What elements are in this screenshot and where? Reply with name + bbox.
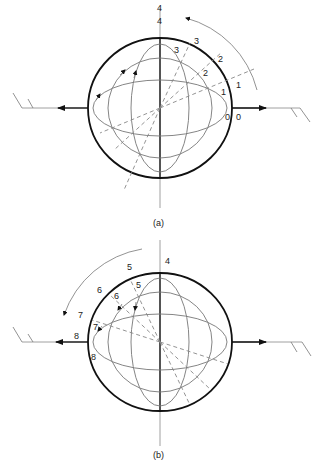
- direction-arrow-icon: [120, 70, 125, 75]
- label-inner-5: 5: [136, 280, 141, 290]
- label-outer-5: 5: [127, 262, 132, 272]
- label-inner-6: 6: [114, 291, 119, 301]
- left-support-icon: [13, 327, 33, 342]
- label-inner-0: 0: [225, 112, 230, 122]
- label-outer-3: 3: [194, 36, 199, 46]
- caption-b: (b): [153, 450, 164, 460]
- label-inner-2: 2: [203, 68, 208, 78]
- label-outer-0: 0: [236, 112, 241, 122]
- right-support-icon: [291, 108, 310, 122]
- label-inner-4: 4: [157, 16, 162, 26]
- label-inner-7: 7: [93, 322, 98, 332]
- label-outer-1: 1: [236, 80, 241, 90]
- right-support-icon: [291, 342, 311, 356]
- label-outer-4: 4: [165, 256, 170, 266]
- label-inner-8: 8: [91, 352, 96, 362]
- caption-a: (a): [153, 218, 164, 228]
- label-outer-4: 4: [157, 3, 162, 13]
- left-support-icon: [13, 93, 33, 108]
- figure: 4 4 3 3 2 2 1 1 0 0 (a): [0, 0, 320, 468]
- panel-a: 4 4 3 3 2 2 1 1 0 0 (a): [13, 3, 310, 228]
- direction-arrow-icon: [96, 94, 100, 100]
- direction-arrow-icon: [135, 302, 136, 310]
- label-outer-2: 2: [218, 54, 223, 64]
- label-outer-7: 7: [78, 310, 83, 320]
- label-outer-6: 6: [97, 285, 102, 295]
- diagram-canvas: 4 4 3 3 2 2 1 1 0 0 (a): [0, 0, 320, 468]
- label-inner-1: 1: [221, 87, 226, 97]
- panel-b: 4 5 5 6 6 7 7 8 8 (b): [13, 240, 311, 460]
- label-inner-3: 3: [174, 45, 179, 55]
- label-outer-8: 8: [74, 331, 79, 341]
- rotation-arrow-icon: [64, 249, 142, 315]
